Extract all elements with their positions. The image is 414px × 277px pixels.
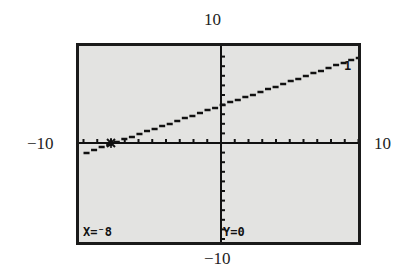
- axes: [79, 46, 358, 242]
- y-coordinate-readout: Y=0: [223, 225, 245, 239]
- y-min-label: −10: [204, 249, 231, 269]
- graph-number-label: 1: [344, 59, 351, 73]
- x-min-label: −10: [27, 134, 54, 154]
- y-max-label: 10: [204, 10, 221, 30]
- graph-plot: 1 X=⁻8 Y=0: [79, 46, 358, 242]
- calculator-screen: 1 X=⁻8 Y=0: [76, 43, 361, 245]
- x-coordinate-readout: X=⁻8: [83, 225, 112, 239]
- x-max-label: 10: [374, 134, 391, 154]
